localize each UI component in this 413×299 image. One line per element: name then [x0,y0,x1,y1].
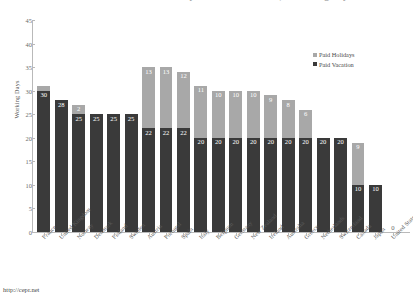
segment-paid-vacation: 22 [160,128,173,232]
bar-new-zealand[interactable]: 1020 [247,91,260,232]
x-axis-tickmark [375,233,376,236]
bar-greece[interactable]: 620 [299,110,312,232]
segment-value-label: 13 [145,67,152,75]
y-axis-tick-30: 30 [10,87,32,94]
segment-paid-vacation: 22 [142,128,155,232]
segment-paid-vacation: 20 [299,138,312,232]
segment-value-label: 20 [302,138,309,146]
segment-value-label: 20 [337,138,344,146]
bar-italy[interactable]: 1120 [194,86,207,232]
segment-value-label: 28 [58,100,65,108]
segment-value-label: 10 [215,91,222,99]
segment-value-label: 30 [41,91,48,99]
segment-value-label: 8 [287,100,290,108]
segment-paid-holidays: 9 [264,95,277,137]
legend-swatch-icon [313,53,317,57]
bar-united-kingdom[interactable]: 28 [55,100,68,232]
x-axis-tickmark [341,233,342,236]
bar-ireland[interactable]: 920 [264,95,277,232]
x-axis-tickmark [131,233,132,236]
x-axis-tickmark [358,233,359,236]
y-axis-tickmark [32,138,35,139]
x-axis-tickmark [61,233,62,236]
bar-netherlands[interactable]: 20 [317,138,330,232]
y-axis-tick-20: 20 [10,134,32,141]
bar-belgium[interactable]: 1020 [212,91,225,232]
segment-paid-holidays: 13 [160,67,173,128]
segment-value-label: 13 [163,67,170,75]
segment-paid-vacation: 20 [194,138,207,232]
bar-finland[interactable]: 25 [107,114,120,232]
zero-value-label: 0 [391,224,394,231]
x-axis-tickmark [149,233,150,236]
y-axis-tickmark [32,20,35,21]
x-axis-tickmark [323,233,324,236]
segment-value-label: 20 [285,138,292,146]
segment-value-label: 22 [180,128,187,136]
y-axis-tick-45: 45 [10,17,32,24]
y-axis-tick-0: 0 [10,229,32,236]
bar-australia[interactable]: 820 [282,100,295,232]
x-axis-tickmark [288,233,289,236]
segment-value-label: 6 [304,110,307,118]
y-axis-tick-5: 5 [10,205,32,212]
x-axis-tickmark [271,233,272,236]
y-axis-tick-15: 15 [10,158,32,165]
legend-item-paid-holidays[interactable]: Paid Holidays [313,50,355,60]
segment-value-label: 2 [77,105,80,113]
segment-paid-vacation: 20 [317,138,330,232]
x-axis-tickmark [166,233,167,236]
y-axis-tickmark [32,44,35,45]
y-axis-tick-35: 35 [10,64,32,71]
bar-denmark[interactable]: 25 [90,114,103,232]
y-axis-tick-10: 10 [10,181,32,188]
segment-paid-vacation: 20 [212,138,225,232]
segment-value-label: 9 [269,95,272,103]
segment-paid-holidays: 10 [247,91,260,138]
chart-legend: Paid HolidaysPaid Vacation [313,50,355,69]
segment-paid-vacation: 22 [177,128,190,232]
bar-austria[interactable]: 1322 [142,67,155,232]
x-axis-tick-labels: FranceUnited KingdomNorwayDenmarkFinland… [33,236,410,282]
bar-sweden[interactable]: 25 [125,114,138,232]
chart-title-cropped: Paid Vacation and Paid Holidays in OECD … [0,0,413,11]
y-axis-tickmark [32,91,35,92]
bar-spain[interactable]: 1222 [177,72,190,232]
segment-value-label: 20 [198,138,205,146]
chart-container: Paid Vacation and Paid Holidays in OECD … [0,0,413,299]
x-axis-tickmark [218,233,219,236]
x-axis-tickmark [306,233,307,236]
segment-paid-vacation: 20 [247,138,260,232]
y-axis-tickmark [32,161,35,162]
segment-paid-vacation: 25 [125,114,138,232]
segment-value-label: 25 [93,114,100,122]
x-axis-tickmark [44,233,45,236]
y-axis-tick-labels: 051015202530354045 [10,18,32,236]
segment-value-label: 11 [198,86,204,94]
segment-value-label: 10 [355,185,362,193]
segment-value-label: 25 [128,114,135,122]
y-axis-tickmark [32,114,35,115]
segment-value-label: 25 [110,114,117,122]
legend-item-paid-vacation[interactable]: Paid Vacation [313,60,355,70]
x-axis-tickmark [183,233,184,236]
segment-paid-holidays: 12 [177,72,190,129]
x-axis-tickmark [393,233,394,236]
y-axis-tickmark [32,232,35,233]
segment-paid-vacation: 25 [90,114,103,232]
bar-portugal[interactable]: 1322 [160,67,173,232]
segment-value-label: 20 [215,138,222,146]
segment-paid-holidays: 6 [299,110,312,138]
segment-paid-holidays: 8 [282,100,295,138]
segment-paid-vacation: 30 [37,91,50,232]
legend-swatch-icon [313,62,317,66]
segment-value-label: 22 [145,128,152,136]
segment-value-label: 22 [163,128,170,136]
segment-value-label: 20 [233,138,240,146]
segment-paid-holidays: 2 [72,105,85,114]
segment-paid-holidays: 10 [212,91,225,138]
bar-germany[interactable]: 1020 [229,91,242,232]
x-axis-tickmark [79,233,80,236]
bar-france[interactable]: 30 [37,86,50,232]
segment-paid-holidays: 11 [194,86,207,138]
